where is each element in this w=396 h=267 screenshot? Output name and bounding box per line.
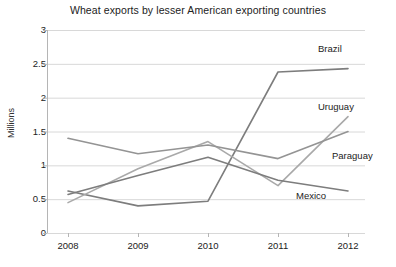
x-tick-label: 2008	[48, 241, 88, 251]
series-line-mexico	[68, 157, 348, 194]
axes	[43, 30, 48, 234]
x-tick-label: 2010	[188, 241, 228, 251]
gridlines	[47, 31, 365, 234]
x-tick-label: 2012	[328, 241, 368, 251]
x-tick-label: 2011	[258, 241, 298, 251]
series-label-uruguay: Uruguay	[318, 102, 354, 112]
series-label-brazil: Brazil	[318, 44, 342, 54]
plot-area	[0, 0, 396, 267]
series-label-mexico: Mexico	[296, 191, 326, 201]
series-line-paraguay	[68, 132, 348, 159]
x-tick-label: 2009	[118, 241, 158, 251]
chart-container: Wheat exports by lesser American exporti…	[0, 0, 396, 267]
series-lines	[68, 69, 348, 206]
series-label-paraguay: Paraguay	[332, 151, 373, 161]
